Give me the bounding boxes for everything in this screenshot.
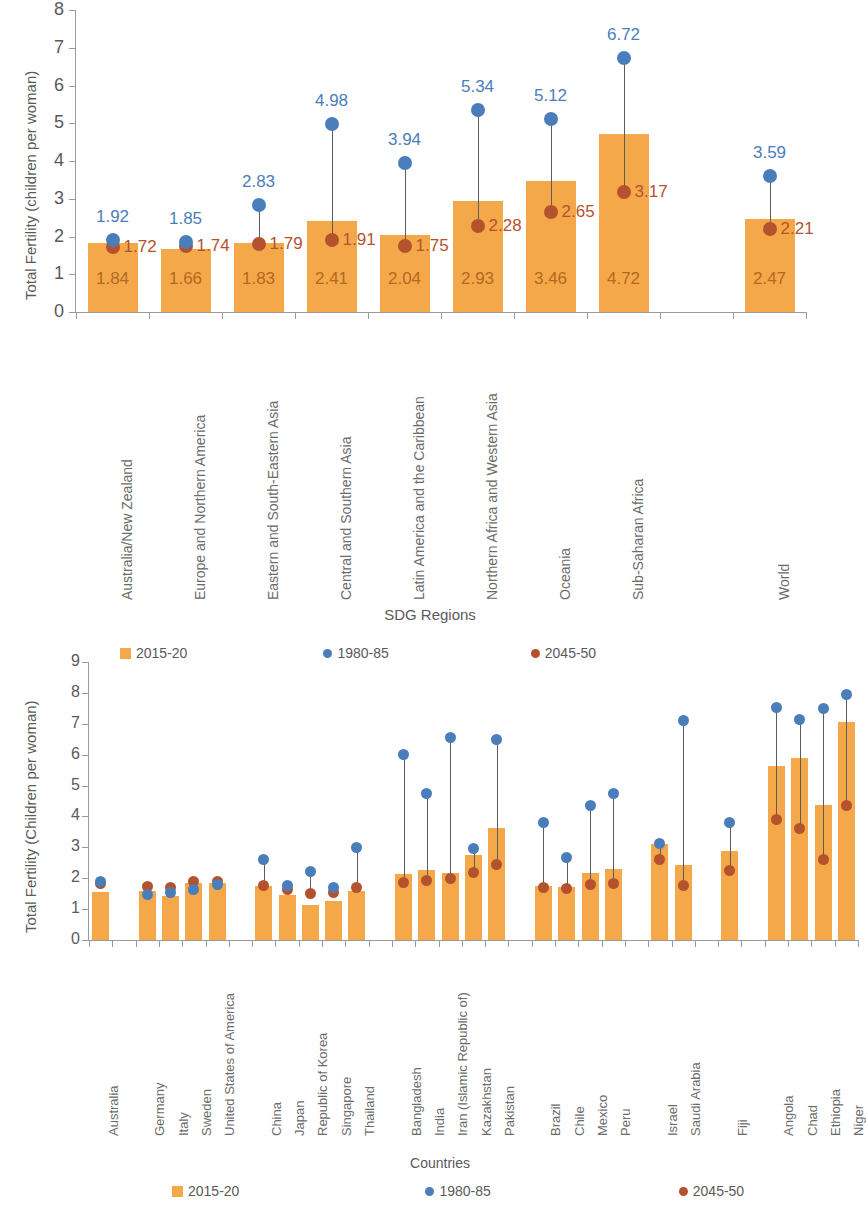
dot-1980-85 xyxy=(763,169,777,183)
sdg-regions-chart: Total Fertility (children per woman) 876… xyxy=(0,0,861,620)
dot-1980-85 xyxy=(471,103,485,117)
legend-item-1980-85-bottom: 1980-85 xyxy=(425,1183,490,1199)
dot-1980-85 xyxy=(212,879,223,890)
x-tick-mark xyxy=(439,940,440,947)
dot-1980-85 xyxy=(445,732,456,743)
x-tick-label: Singapore xyxy=(339,1077,354,1136)
x-tick-label: Bangladesh xyxy=(409,1067,424,1136)
dot-1980-85 xyxy=(491,734,502,745)
value-label-1980-85: 1.85 xyxy=(162,210,210,227)
x-tick-label: India xyxy=(432,1108,447,1136)
bar-2015-20 xyxy=(92,892,109,940)
dot-1980-85 xyxy=(794,714,805,725)
x-tick-mark xyxy=(159,940,160,947)
x-tick-label: Australia/New Zealand xyxy=(119,459,135,600)
x-tick-label: Israel xyxy=(665,1104,680,1136)
value-label-2045-50: 1.79 xyxy=(270,235,303,252)
value-label-1980-85: 5.34 xyxy=(454,78,502,95)
bottom-chart-legend-bottom: 2015-20 1980-85 2045-50 xyxy=(172,1183,744,1199)
x-tick-mark xyxy=(835,940,836,947)
x-tick-label: Sweden xyxy=(199,1089,214,1136)
value-label-2015-20: 2.93 xyxy=(454,270,502,287)
value-label-2015-20: 3.46 xyxy=(527,270,575,287)
x-tick-label: Chile xyxy=(572,1106,587,1136)
value-label-2015-20: 2.47 xyxy=(746,270,794,287)
x-tick-mark xyxy=(345,940,346,947)
x-tick-mark xyxy=(415,940,416,947)
dot-1980-85 xyxy=(561,852,572,863)
connector-stem xyxy=(823,708,824,859)
x-tick-mark xyxy=(587,312,588,319)
dot-2045-50 xyxy=(841,800,852,811)
dot-2045-50 xyxy=(818,854,829,865)
bar-2015-20 xyxy=(209,883,226,940)
dot-1980-85 xyxy=(468,843,479,854)
legend-label: 2015-20 xyxy=(188,1183,239,1199)
bar-2015-20 xyxy=(348,891,365,940)
x-tick-mark xyxy=(89,940,90,947)
connector-stem xyxy=(683,721,684,885)
value-label-2015-20: 1.66 xyxy=(162,270,210,287)
x-tick-label: Northern Africa and Western Asia xyxy=(484,393,500,600)
x-tick-label: Oceania xyxy=(557,548,573,600)
x-tick-label: Mexico xyxy=(595,1095,610,1136)
x-tick-label: Saudi Arabia xyxy=(688,1062,703,1136)
dot-1980-85 xyxy=(252,198,266,212)
dot-1980-85 xyxy=(617,51,631,65)
x-tick-label: Ethiopia xyxy=(828,1089,843,1136)
dot-2045-50 xyxy=(585,879,596,890)
x-tick-mark xyxy=(733,312,734,319)
connector-stem xyxy=(450,738,451,879)
x-tick-mark xyxy=(322,940,323,947)
value-label-1980-85: 1.92 xyxy=(89,208,137,225)
x-tick-label: Kazakhstan xyxy=(479,1068,494,1136)
dot-2045-50 xyxy=(471,219,485,233)
dot-2045-50 xyxy=(305,888,316,899)
dot-2045-50 xyxy=(468,867,479,878)
dot-2045-50 xyxy=(794,823,805,834)
x-tick-label: Pakistan xyxy=(502,1086,517,1136)
connector-stem xyxy=(543,823,544,888)
connector-stem xyxy=(478,110,479,226)
dot-2045-50 xyxy=(538,882,549,893)
x-tick-label: Iran (Islamic Republic of) xyxy=(455,992,470,1136)
dot-2045-50 xyxy=(617,185,631,199)
x-tick-mark xyxy=(368,312,369,319)
dot-2045-50 xyxy=(608,878,619,889)
dot-2045-50 xyxy=(724,865,735,876)
dot-1980-85 xyxy=(771,702,782,713)
connector-stem xyxy=(332,124,333,240)
x-tick-mark xyxy=(299,940,300,947)
x-tick-label: Central and Southern Asia xyxy=(338,437,354,600)
dot-2045-50 xyxy=(678,880,689,891)
top-chart-plot-area: 1.921.721.841.851.741.662.831.791.834.98… xyxy=(0,0,861,320)
x-tick-label: Niger xyxy=(851,1105,866,1136)
dot-1980-85 xyxy=(305,866,316,877)
countries-chart: 2015-20 1980-85 2045-50 Total Fertility … xyxy=(0,628,861,1211)
x-tick-mark xyxy=(718,940,719,947)
x-tick-label: Angola xyxy=(781,1096,796,1136)
value-label-1980-85: 2.83 xyxy=(235,173,283,190)
x-tick-label: Germany xyxy=(152,1083,167,1136)
x-tick-mark xyxy=(136,940,137,947)
dot-1980-85 xyxy=(841,689,852,700)
x-tick-mark xyxy=(532,940,533,947)
bottom-chart-x-axis-title: Countries xyxy=(380,1155,500,1171)
top-chart-x-axis-title: SDG Regions xyxy=(330,606,530,623)
connector-stem xyxy=(800,719,801,828)
x-tick-label: Republic of Korea xyxy=(315,1033,330,1136)
x-tick-mark xyxy=(295,312,296,319)
x-tick-label: Japan xyxy=(292,1101,307,1136)
connector-stem xyxy=(776,707,777,819)
dot-1980-85 xyxy=(258,854,269,865)
legend-item-2045-50-bottom: 2045-50 xyxy=(679,1183,744,1199)
x-tick-mark xyxy=(765,940,766,947)
dot-1980-85 xyxy=(95,876,106,887)
x-tick-mark xyxy=(508,940,509,947)
dot-1980-85 xyxy=(351,842,362,853)
value-label-2045-50: 2.28 xyxy=(489,217,522,234)
connector-stem xyxy=(730,822,731,870)
x-tick-mark xyxy=(369,940,370,947)
x-tick-mark xyxy=(858,940,859,947)
connector-stem xyxy=(613,793,614,883)
